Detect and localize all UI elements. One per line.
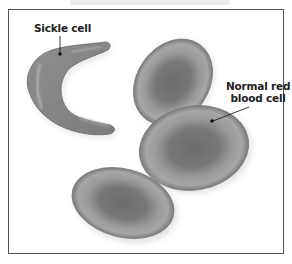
sickle-cell bbox=[27, 42, 116, 138]
normal-rbc-label-line2: blood cell bbox=[226, 92, 290, 104]
sickle-leader-line bbox=[58, 36, 62, 56]
normal-rbc-label-line1: Normal red bbox=[226, 80, 290, 92]
sickle-cell-label: Sickle cell bbox=[34, 22, 91, 34]
blood-cells-illustration bbox=[0, 0, 292, 264]
sickle-cell-label-text: Sickle cell bbox=[34, 22, 91, 34]
normal-rbc-label: Normal red blood cell bbox=[226, 80, 290, 104]
